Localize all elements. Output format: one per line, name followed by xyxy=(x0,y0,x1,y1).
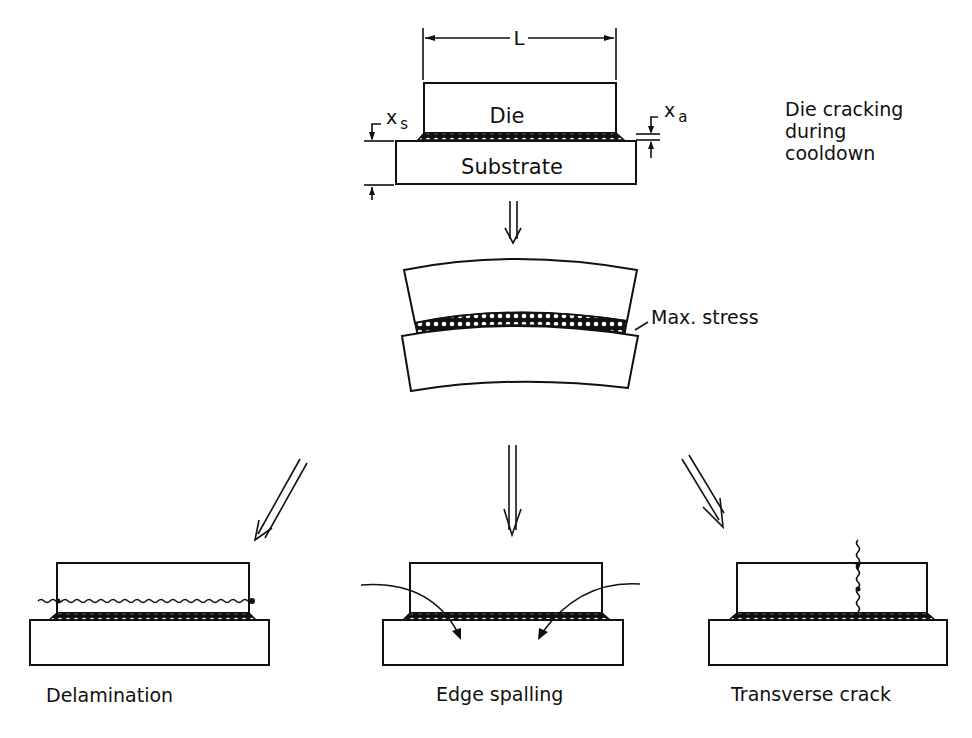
die-label: Die xyxy=(490,104,525,128)
xs-label: xs xyxy=(386,106,408,133)
substrate xyxy=(383,620,623,665)
crack-tip xyxy=(856,587,861,592)
max-stress-label: Max. stress xyxy=(651,306,759,328)
top-assembly: L Die Substrate xs xa Die cracking durin… xyxy=(364,26,909,200)
xa-arrow-icon xyxy=(648,126,654,134)
die xyxy=(737,563,927,613)
failure-mode-label: Transverse crack xyxy=(730,683,891,705)
dimension-label: L xyxy=(513,26,525,50)
failure-mode-label: Edge spalling xyxy=(436,683,563,705)
warped-substrate xyxy=(402,326,638,391)
dimension-arrow-left-icon xyxy=(425,35,435,41)
die-attach-layer xyxy=(729,613,935,620)
failure-mode-transverse-crack: Transverse crack xyxy=(709,540,947,705)
substrate xyxy=(30,620,269,665)
double-arrow-down-right-icon xyxy=(682,455,724,527)
crack-tip xyxy=(249,598,255,604)
double-arrow-down-icon xyxy=(505,201,521,243)
die-cracking-diagram: L Die Substrate xs xa Die cracking durin… xyxy=(0,0,972,738)
die-attach-layer xyxy=(418,133,624,140)
top-caption: Die cracking during cooldown xyxy=(785,98,909,164)
substrate-label: Substrate xyxy=(461,155,563,179)
double-arrow-down-center-icon xyxy=(504,445,521,535)
max-stress-leader xyxy=(635,322,648,330)
failure-mode-label: Delamination xyxy=(46,684,173,706)
double-arrow-down-left-icon xyxy=(255,459,307,540)
crack-tip xyxy=(56,599,61,604)
dimension-arrow-right-icon xyxy=(604,35,614,41)
xa-arrow-bottom-icon xyxy=(648,141,654,149)
warped-assembly: Max. stress xyxy=(402,259,759,391)
failure-mode-edge-spalling: Edge spalling xyxy=(361,563,640,705)
die-attach-layer xyxy=(49,613,256,620)
failure-mode-delamination: Delamination xyxy=(30,563,269,706)
substrate xyxy=(709,620,947,665)
xs-arrow-bottom-icon xyxy=(369,187,375,195)
die xyxy=(410,563,602,613)
xa-label: xa xyxy=(664,99,687,126)
xs-arrow-icon xyxy=(369,132,375,141)
die-attach-layer xyxy=(403,613,610,620)
die xyxy=(57,563,249,613)
